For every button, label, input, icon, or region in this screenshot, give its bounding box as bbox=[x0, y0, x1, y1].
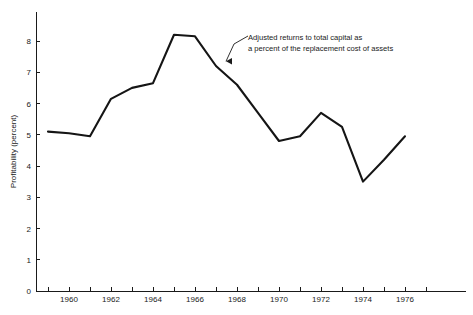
x-axis-tick-label: 1962 bbox=[102, 295, 120, 304]
x-axis: 196019621964196619681970197219741976 bbox=[36, 287, 466, 304]
y-axis-tick-label: 8 bbox=[27, 37, 32, 46]
x-axis-tick-label: 1966 bbox=[186, 295, 204, 304]
annotation-text-line-1: Adjusted returns to total capital as bbox=[248, 33, 363, 42]
y-axis-tick-label: 3 bbox=[27, 193, 32, 202]
y-axis-tick-label: 1 bbox=[27, 256, 32, 265]
y-axis-tick-label: 4 bbox=[27, 162, 32, 171]
x-axis-tick-label: 1968 bbox=[228, 295, 246, 304]
x-axis-tick-label: 1970 bbox=[270, 295, 288, 304]
y-axis-tick-label: 0 bbox=[27, 287, 32, 296]
y-axis-tick-label: 7 bbox=[27, 68, 32, 77]
y-axis: 012345678Profitability (percent) bbox=[9, 12, 40, 296]
plot-area bbox=[48, 35, 405, 182]
x-axis-tick-label: 1972 bbox=[312, 295, 330, 304]
y-axis-title: Profitability (percent) bbox=[9, 114, 18, 188]
x-axis-tick-label: 1960 bbox=[60, 295, 78, 304]
data-series-line bbox=[48, 35, 405, 182]
annotation-leader-line bbox=[226, 36, 248, 61]
x-axis-tick-label: 1976 bbox=[396, 295, 414, 304]
y-axis-tick-label: 2 bbox=[27, 225, 32, 234]
profitability-line-chart: 012345678Profitability (percent) 1960196… bbox=[0, 0, 473, 315]
y-axis-tick-label: 6 bbox=[27, 100, 32, 109]
y-axis-tick-label: 5 bbox=[27, 131, 32, 140]
x-axis-tick-label: 1974 bbox=[354, 295, 372, 304]
annotation-layer: Adjusted returns to total capital asa pe… bbox=[226, 33, 393, 65]
x-axis-tick-label: 1964 bbox=[144, 295, 162, 304]
annotation-text-line-2: a percent of the replacement cost of ass… bbox=[248, 44, 393, 53]
chart-page: 012345678Profitability (percent) 1960196… bbox=[0, 0, 473, 315]
